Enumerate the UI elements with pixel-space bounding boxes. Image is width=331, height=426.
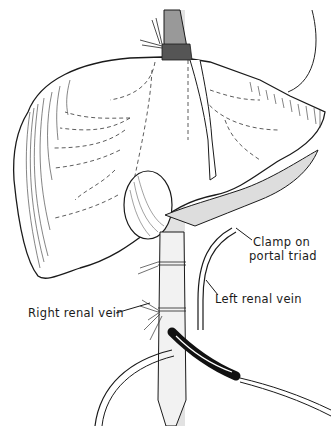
clamp-arm-2 bbox=[203, 232, 236, 330]
right-renal-vein-label: Right renal vein bbox=[28, 307, 124, 320]
diaphragm-cuff bbox=[162, 44, 192, 60]
anatomy-drawing bbox=[0, 0, 331, 426]
ligature-strings-top bbox=[140, 18, 162, 48]
liver-illustration: Clamp on portal triad Left renal vein Ri… bbox=[0, 0, 331, 426]
left-renal-vein-label: Left renal vein bbox=[215, 293, 302, 306]
clamp-label-line1: Clamp on bbox=[253, 236, 310, 249]
clamp-label-line2: portal triad bbox=[249, 250, 317, 263]
tubing-right bbox=[240, 378, 331, 410]
clamp-leader-line bbox=[236, 228, 252, 240]
body-contour bbox=[288, 10, 316, 92]
tubing-right-inner bbox=[240, 382, 331, 416]
